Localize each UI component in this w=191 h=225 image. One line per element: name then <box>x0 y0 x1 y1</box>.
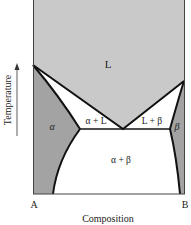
x-axis-right-end-label: B <box>182 199 189 210</box>
x-axis-left-end-label: A <box>30 199 38 210</box>
arrow-up-icon <box>15 63 20 70</box>
label-beta: β <box>174 121 180 132</box>
label-alpha-plus-liquid: α + L <box>86 116 107 126</box>
label-alpha-plus-beta: α + β <box>111 155 131 165</box>
label-liquid-plus-beta: L + β <box>142 116 163 126</box>
y-axis-title: Temperature <box>2 74 13 125</box>
phase-diagram: L α β α + L L + β α + β A B Composition … <box>0 0 191 225</box>
label-alpha: α <box>49 121 55 132</box>
x-axis-title: Composition <box>82 213 134 224</box>
label-liquid: L <box>105 58 112 70</box>
